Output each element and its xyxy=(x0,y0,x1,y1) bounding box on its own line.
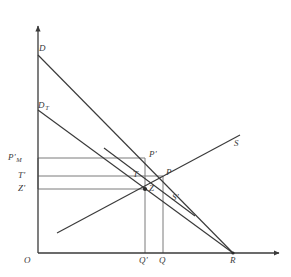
point-label-r: R xyxy=(230,256,236,265)
curve-label-supply-tax: S' xyxy=(172,193,179,202)
axis-label-tax-price: T' xyxy=(18,171,25,180)
supply-demand-tax-figure: D DT S S' P'M T' Z' Q' Q P' T P Z R O xyxy=(0,0,291,277)
curve-group xyxy=(38,55,240,253)
curve-label-demand: D xyxy=(39,44,46,53)
axis-label-quantity-equilibrium: Q xyxy=(159,256,166,265)
point-label-z: Z xyxy=(149,184,154,193)
axis-label-z-price: Z' xyxy=(18,184,25,193)
point-label-p: P xyxy=(166,168,172,177)
axis-label-monopoly-price: P'M xyxy=(8,153,21,162)
axis-label-quantity-restricted: Q' xyxy=(139,256,148,265)
curve-label-supply: S xyxy=(234,139,239,148)
point-label-t: T xyxy=(133,170,138,179)
curve-label-demand-tax: DT xyxy=(38,101,49,110)
axis-label-origin: O xyxy=(24,256,31,265)
diagram-canvas xyxy=(0,0,291,277)
point-label-p-prime: P' xyxy=(149,150,157,159)
axis-group xyxy=(38,26,279,253)
demand-tax-curve xyxy=(38,110,233,253)
point-marker-z xyxy=(143,187,147,191)
